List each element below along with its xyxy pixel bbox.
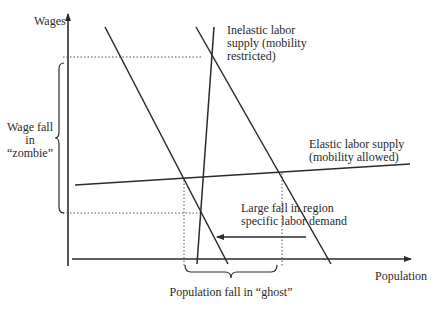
- inelastic-supply-label-line1: Inelastic labor: [227, 23, 295, 37]
- wage-fall-label-line1: Wage fall: [7, 120, 54, 134]
- population-fall-brace: [185, 265, 277, 278]
- wage-fall-label-line2: in: [25, 133, 34, 147]
- inelastic-labor-supply-curve: [197, 27, 214, 264]
- elastic-labor-supply-curve: [75, 164, 410, 185]
- inelastic-supply-label-line2: supply (mobility: [227, 36, 307, 50]
- population-fall-label: Population fall in “ghost”: [170, 285, 293, 299]
- labor-market-diagram: Wages Population Inelastic labor supply …: [0, 0, 440, 313]
- wage-fall-label-line3: “zombie”: [7, 146, 53, 160]
- reduced-labor-demand-curve: [105, 27, 228, 264]
- wage-fall-brace: [55, 63, 64, 213]
- elastic-supply-label-line1: Elastic labor supply: [309, 137, 404, 151]
- y-axis-label: Wages: [34, 14, 66, 28]
- elastic-supply-label-line2: (mobility allowed): [309, 150, 399, 164]
- demand-shift-label-line1: Large fall in region: [241, 201, 334, 215]
- demand-shift-label-line2: specific labor demand: [241, 214, 347, 228]
- inelastic-supply-label-line3: restricted): [227, 49, 276, 63]
- x-axis-label: Population: [375, 269, 427, 283]
